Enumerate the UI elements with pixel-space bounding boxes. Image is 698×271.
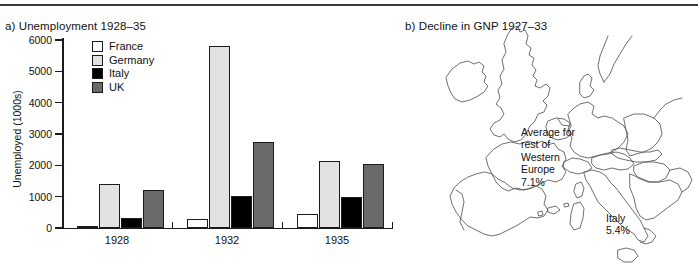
island-corsica: [574, 182, 584, 198]
y-tick-label: 5000: [29, 65, 52, 77]
y-tick-mark: [55, 227, 63, 228]
y-tick-mark: [55, 165, 63, 166]
legend-swatch-italy: [92, 68, 103, 79]
panel-a-unemployment-chart: a) Unemployment 1928–35 Unemployed (1000…: [0, 0, 400, 271]
bar-italy-1935: [341, 197, 362, 228]
panel-a-title: a) Unemployment 1928–35: [5, 20, 146, 32]
legend-label-uk: UK: [109, 81, 124, 95]
y-tick-mark: [55, 102, 63, 103]
y-tick-mark: [55, 196, 63, 197]
country-yugoslavia: [630, 174, 682, 220]
country-romania-edge: [670, 168, 692, 192]
x-group-separator: [172, 222, 173, 229]
bar-france-1935: [297, 214, 318, 228]
country-hungary: [634, 162, 670, 182]
y-tick-label: 0: [46, 222, 52, 234]
legend-label-france: France: [109, 40, 143, 54]
figure-page: a) Unemployment 1928–35 Unemployed (1000…: [0, 0, 698, 271]
legend-item-uk: UK: [92, 81, 154, 95]
map-annotation-italy: Italy 5.4%: [606, 212, 630, 237]
country-great-britain: [490, 26, 550, 142]
legend-label-germany: Germany: [109, 54, 154, 68]
scandinavia-coast-west: [598, 36, 608, 82]
island-sicily: [618, 248, 638, 262]
island-balearics: [548, 206, 560, 214]
bar-uk-1928: [143, 190, 164, 228]
bar-germany-1935: [319, 161, 340, 228]
country-germany: [568, 102, 628, 158]
legend-item-france: France: [92, 40, 154, 54]
x-group-separator: [392, 222, 393, 229]
bar-italy-1928: [121, 218, 142, 228]
bar-uk-1935: [363, 164, 384, 228]
island-ibiza: [538, 211, 543, 216]
bar-germany-1932: [209, 46, 230, 228]
bar-italy-1932: [231, 196, 252, 228]
panel-b-gnp-map: b) Decline in GNP 1927–33: [400, 0, 698, 271]
legend-item-italy: Italy: [92, 67, 154, 81]
bar-germany-1928: [99, 184, 120, 228]
y-tick-label: 4000: [29, 97, 52, 109]
country-czechoslovakia: [612, 148, 662, 162]
y-tick-mark: [55, 133, 63, 134]
legend-item-germany: Germany: [92, 54, 154, 68]
baltic-coastline: [654, 98, 682, 118]
y-axis-title: Unemployed (1000s): [11, 64, 23, 214]
bar-france-1932: [187, 219, 208, 228]
y-tick-label: 2000: [29, 159, 52, 171]
country-portugal-border: [456, 190, 464, 230]
bar-france-1928: [77, 226, 98, 228]
island-menorca: [564, 203, 569, 207]
bar-uk-1932: [253, 142, 274, 228]
country-ireland: [446, 61, 488, 102]
y-tick-mark: [55, 71, 63, 72]
chart-legend: FranceGermanyItalyUK: [92, 40, 154, 94]
legend-swatch-france: [92, 41, 103, 52]
x-group-separator: [282, 222, 283, 229]
country-netherlands-border: [558, 119, 570, 126]
scandinavia-edge: [604, 36, 632, 82]
x-axis-label-1928: 1928: [105, 234, 129, 246]
x-axis-label-1932: 1932: [215, 234, 239, 246]
y-tick-label: 3000: [29, 128, 52, 140]
y-tick-label: 6000: [29, 34, 52, 46]
island-sardinia: [570, 202, 584, 230]
legend-swatch-germany: [92, 55, 103, 66]
y-tick-label: 1000: [29, 191, 52, 203]
y-tick-mark: [55, 39, 63, 40]
country-denmark: [580, 74, 594, 98]
legend-label-italy: Italy: [109, 67, 129, 81]
legend-swatch-uk: [92, 82, 103, 93]
map-annotation-western-europe: Average for rest of Western Europe 7.1%: [521, 126, 575, 188]
x-axis-label-1935: 1935: [325, 234, 349, 246]
